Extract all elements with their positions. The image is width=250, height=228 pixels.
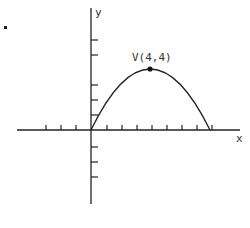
y-axis-ticks [91,40,98,177]
parabola-curve [91,69,210,130]
x-axis-ticks [46,125,212,130]
stray-dot [4,26,7,29]
vertex-point [147,66,152,71]
x-axis-label: x [236,132,243,145]
y-axis-label: y [95,6,102,19]
parabola-diagram: V(4,4) y x [0,0,250,228]
vertex-label: V(4,4) [132,51,172,64]
